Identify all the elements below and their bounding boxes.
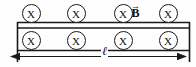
field-symbol-into-page: X [159, 31, 178, 50]
field-symbol-glyph: X [164, 8, 172, 19]
field-symbol-into-page: X [67, 31, 86, 50]
length-dimension-label: ℓ [101, 45, 108, 57]
field-symbol-glyph: X [72, 35, 80, 46]
field-symbol-into-page: X [159, 4, 178, 23]
field-symbol-glyph: X [119, 8, 127, 19]
physics-diagram: X X X X X X X X → B ℓ [0, 0, 196, 67]
field-symbol-into-page: X [114, 4, 133, 23]
magnetic-field-symbol: B [131, 7, 140, 19]
field-symbol-glyph: X [119, 35, 127, 46]
field-symbol-into-page: X [67, 4, 86, 23]
field-symbol-into-page: X [22, 31, 41, 50]
field-symbol-into-page: X [114, 31, 133, 50]
dimension-arrowhead-left [10, 53, 20, 60]
field-symbol-glyph: X [164, 35, 172, 46]
field-symbol-glyph: X [27, 35, 35, 46]
field-symbol-into-page: X [22, 4, 41, 23]
dimension-arrowhead-right [177, 53, 187, 60]
field-symbol-glyph: X [72, 8, 80, 19]
magnetic-field-vector-label: → B [131, 3, 140, 20]
field-symbol-glyph: X [27, 8, 35, 19]
